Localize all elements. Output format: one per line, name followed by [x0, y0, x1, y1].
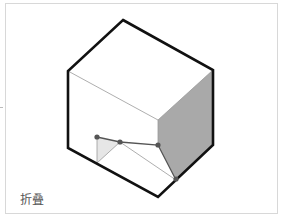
fold-point [173, 176, 178, 181]
fold-point [117, 139, 122, 144]
fold-point [155, 142, 160, 147]
shaded-face [158, 70, 213, 180]
folded-cube-diagram [0, 0, 283, 222]
edge-line [68, 71, 158, 120]
figure-caption: 折叠 [20, 190, 44, 207]
fold-point [94, 134, 99, 139]
